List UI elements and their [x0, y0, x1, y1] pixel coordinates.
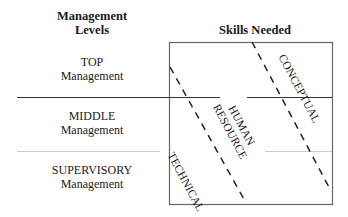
skills-diagram	[0, 0, 348, 217]
skills-box	[170, 43, 333, 205]
